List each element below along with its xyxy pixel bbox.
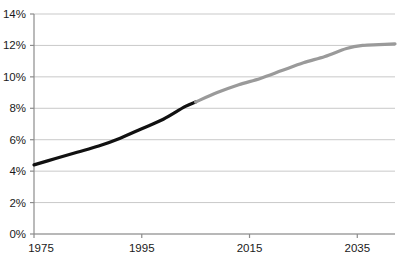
x-axis-label-1: 1995 — [129, 242, 155, 254]
data-series-group — [34, 44, 395, 165]
y-axis-label-4: 8% — [9, 102, 26, 114]
y-axis-label-7: 14% — [3, 8, 26, 20]
x-axis-label-3: 2035 — [344, 242, 370, 254]
y-axis-label-6: 12% — [3, 39, 26, 51]
chart-container: 0%2%4%6%8%10%12%14% 1975199520152035 — [0, 0, 402, 256]
y-axis-label-0: 0% — [9, 228, 26, 240]
y-axis-label-1: 2% — [9, 197, 26, 209]
series-line-historical — [34, 102, 196, 165]
gridlines-group — [34, 14, 395, 234]
y-axis-label-3: 6% — [9, 134, 26, 146]
y-axis-label-2: 4% — [9, 165, 26, 177]
x-axis-labels-group: 1975199520152035 — [28, 242, 370, 254]
y-axis-labels-group: 0%2%4%6%8%10%12%14% — [3, 8, 26, 240]
line-chart: 0%2%4%6%8%10%12%14% 1975199520152035 — [0, 0, 402, 256]
y-axis-label-5: 10% — [3, 71, 26, 83]
x-axis-ticks-group — [34, 234, 357, 238]
x-axis-label-0: 1975 — [28, 242, 54, 254]
series-line-projected — [196, 44, 395, 102]
x-axis-label-2: 2015 — [237, 242, 263, 254]
